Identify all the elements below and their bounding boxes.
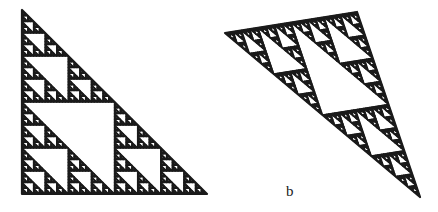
sierpinski-triangle-skewed xyxy=(225,12,420,197)
sierpinski-figure xyxy=(0,0,438,212)
panel-label-b: b xyxy=(286,184,294,199)
sierpinski-triangle-right-angled xyxy=(22,10,207,194)
